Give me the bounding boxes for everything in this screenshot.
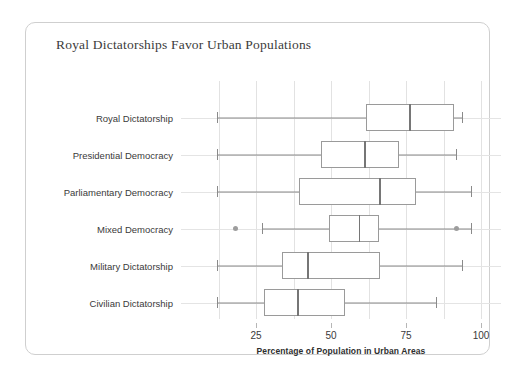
x-axis-tick-mark: [481, 323, 482, 328]
whisker-cap-max: [462, 112, 463, 123]
whisker-cap-max: [436, 297, 437, 308]
box-iqr[interactable]: [282, 252, 380, 279]
whisker-cap-max: [456, 149, 457, 160]
outlier-point[interactable]: [454, 226, 459, 231]
median-line: [297, 289, 299, 316]
y-axis-label: Royal Dictatorship: [96, 112, 173, 123]
x-axis-tick-mark: [331, 323, 332, 328]
y-axis-label: Mixed Democracy: [97, 223, 173, 234]
y-axis-label: Military Dictatorship: [90, 260, 173, 271]
whisker-cap-min: [262, 223, 263, 234]
whisker-cap-min: [217, 112, 218, 123]
chart-title: Royal Dictatorships Favor Urban Populati…: [56, 37, 311, 53]
whisker-cap-min: [217, 149, 218, 160]
box-iqr[interactable]: [329, 215, 379, 242]
whisker-cap-max: [462, 260, 463, 271]
y-axis-label: Presidential Democracy: [73, 149, 173, 160]
y-axis-label: Civilian Dictatorship: [90, 297, 173, 308]
median-line: [379, 178, 381, 205]
whisker-cap-min: [217, 260, 218, 271]
median-line: [359, 215, 361, 242]
outlier-point[interactable]: [233, 226, 238, 231]
box-iqr[interactable]: [321, 141, 399, 168]
whisker-cap-min: [217, 297, 218, 308]
boxplot-row[interactable]: [181, 246, 501, 286]
x-axis-tick-mark: [406, 323, 407, 328]
y-axis-label: Parliamentary Democracy: [64, 186, 173, 197]
whisker-cap-max: [471, 223, 472, 234]
chart-card: Royal Dictatorships Favor Urban Populati…: [25, 22, 490, 355]
median-line: [307, 252, 309, 279]
boxplot-row[interactable]: [181, 209, 501, 249]
x-axis-tick-label: 100: [473, 330, 490, 341]
x-axis-tick-label: 75: [400, 330, 411, 341]
boxplot-row[interactable]: [181, 98, 501, 138]
whisker-cap-min: [217, 186, 218, 197]
plot-area: Royal DictatorshipPresidential Democracy…: [181, 81, 501, 319]
x-axis-tick-mark: [256, 323, 257, 328]
median-line: [364, 141, 366, 168]
x-axis-tick-label: 25: [250, 330, 261, 341]
boxplot-row[interactable]: [181, 172, 501, 212]
boxplot-row[interactable]: [181, 283, 501, 323]
whisker-cap-max: [471, 186, 472, 197]
box-iqr[interactable]: [299, 178, 416, 205]
x-axis-tick-label: 50: [325, 330, 336, 341]
median-line: [409, 104, 411, 131]
x-axis-title: Percentage of Population in Urban Areas: [181, 346, 501, 356]
box-iqr[interactable]: [264, 289, 345, 316]
boxplot-row[interactable]: [181, 135, 501, 175]
